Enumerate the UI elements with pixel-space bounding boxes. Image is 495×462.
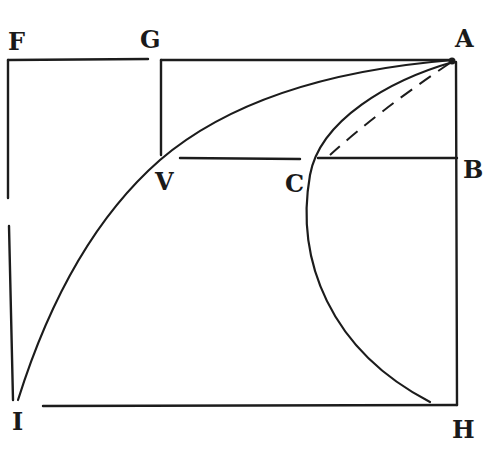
label-I: I bbox=[12, 410, 23, 434]
line-IH bbox=[43, 405, 457, 406]
point-A-dot bbox=[449, 58, 456, 65]
label-C: C bbox=[285, 172, 304, 196]
diagram-drawing bbox=[0, 0, 495, 462]
line-FI bbox=[8, 60, 13, 400]
line-VB bbox=[180, 158, 457, 159]
label-F: F bbox=[8, 30, 25, 54]
line-AH bbox=[456, 62, 457, 405]
label-H: H bbox=[452, 418, 475, 442]
label-B: B bbox=[463, 158, 483, 182]
dashed-chord-AC bbox=[330, 63, 450, 155]
curve-IVA bbox=[18, 60, 453, 400]
label-V: V bbox=[155, 170, 174, 194]
geometric-diagram: F G A B V C I H bbox=[0, 0, 495, 462]
arc-ACH bbox=[307, 62, 453, 402]
label-G: G bbox=[140, 28, 161, 52]
label-A: A bbox=[455, 27, 474, 51]
line-FG bbox=[8, 59, 148, 60]
